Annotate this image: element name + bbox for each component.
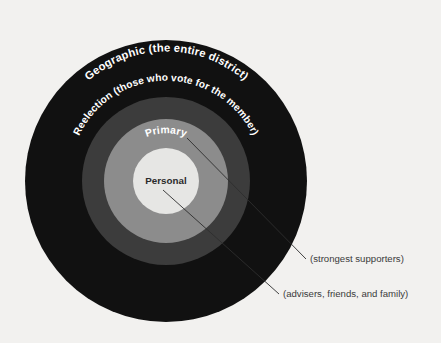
ring-label-personal: Personal bbox=[145, 175, 187, 186]
diagram-canvas: Geographic (the entire district) Reelect… bbox=[0, 0, 441, 343]
concentric-circles-diagram: Geographic (the entire district) Reelect… bbox=[0, 0, 441, 343]
callout-strongest-supporters: (strongest supporters) bbox=[310, 253, 404, 264]
callout-advisers-friends-family: (advisers, friends, and family) bbox=[283, 288, 408, 299]
